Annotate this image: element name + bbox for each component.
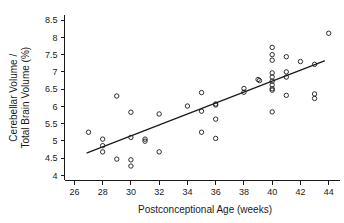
data-point xyxy=(185,104,189,108)
y-tick-label: 7.5 xyxy=(45,50,58,60)
y-tick-label: 4 xyxy=(52,171,57,181)
y-tick-label: 4.5 xyxy=(45,153,58,163)
regression-line xyxy=(87,61,324,153)
x-tick-label: 44 xyxy=(324,187,334,197)
x-tick-label: 30 xyxy=(126,187,136,197)
y-axis: 44.555.566.577.588.5 xyxy=(45,15,65,181)
data-point xyxy=(199,130,203,134)
x-tick-label: 32 xyxy=(154,187,164,197)
scatter-plot: 44.555.566.577.588.5 2628303234363840424… xyxy=(0,0,344,223)
data-point-group xyxy=(86,31,331,168)
x-tick-label: 42 xyxy=(295,187,305,197)
data-point xyxy=(284,93,288,97)
data-point xyxy=(213,136,217,140)
data-point xyxy=(312,96,316,100)
y-tick-label: 8 xyxy=(52,33,57,43)
y-tick-group: 44.555.566.577.588.5 xyxy=(45,15,65,180)
x-tick-label: 38 xyxy=(239,187,249,197)
data-point xyxy=(270,45,274,49)
data-point xyxy=(270,58,274,62)
data-point xyxy=(100,150,104,154)
y-tick-label: 5 xyxy=(52,136,57,146)
x-axis: 26283032343638404244 xyxy=(65,181,341,197)
data-point xyxy=(129,164,133,168)
data-point xyxy=(284,70,288,74)
data-point xyxy=(284,55,288,59)
chart-figure: 44.555.566.577.588.5 2628303234363840424… xyxy=(0,0,344,223)
data-point xyxy=(115,94,119,98)
y-tick-label: 7 xyxy=(52,67,57,77)
x-axis-title: Postconceptional Age (weeks) xyxy=(138,204,272,215)
data-point xyxy=(157,112,161,116)
data-point xyxy=(129,158,133,162)
data-point xyxy=(100,137,104,141)
data-point xyxy=(157,150,161,154)
data-point xyxy=(312,92,316,96)
y-axis-title-line1: Cerebellar Volume / xyxy=(8,54,19,142)
data-point xyxy=(327,31,331,35)
data-point xyxy=(213,117,217,121)
data-point xyxy=(86,130,90,134)
data-point xyxy=(270,52,274,56)
y-axis-title-line2: Total Brain Volume (%) xyxy=(20,47,31,149)
y-tick-label: 8.5 xyxy=(45,15,58,25)
data-point xyxy=(129,110,133,114)
data-point xyxy=(270,110,274,114)
x-tick-group: 26283032343638404244 xyxy=(69,181,333,197)
x-tick-label: 28 xyxy=(98,187,108,197)
x-tick-label: 40 xyxy=(267,187,277,197)
y-tick-label: 6.5 xyxy=(45,84,58,94)
x-tick-label: 26 xyxy=(69,187,79,197)
y-tick-label: 6 xyxy=(52,102,57,112)
y-tick-label: 5.5 xyxy=(45,119,58,129)
data-point xyxy=(298,59,302,63)
data-point xyxy=(115,157,119,161)
x-tick-label: 36 xyxy=(211,187,221,197)
x-tick-label: 34 xyxy=(182,187,192,197)
data-point xyxy=(257,78,261,82)
data-point xyxy=(199,90,203,94)
